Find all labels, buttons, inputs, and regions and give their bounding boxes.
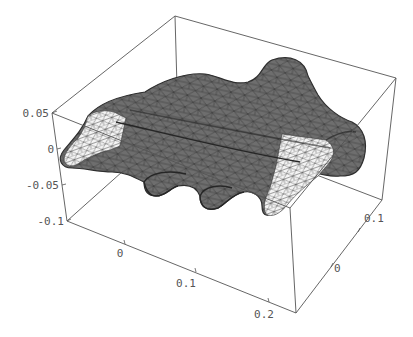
z-axis: 0.05 0 -0.05 -0.1 [23,107,72,228]
x-tick-label: 0.1 [176,277,196,290]
x-tick-label: 0 [117,247,124,260]
x-tick-label: 0.2 [254,308,274,321]
z-tick-label: -0.1 [38,215,65,228]
y-tick-label: 0.1 [364,212,384,225]
z-tick-label: 0 [47,143,54,156]
z-tick-label: 0.05 [23,107,50,120]
z-tick-label: -0.05 [26,179,59,192]
x-axis: 0 0.1 0.2 [117,240,274,321]
surface-mesh [60,58,365,216]
3d-plot: 0.05 0 -0.05 -0.1 0 0.1 0.2 0 0.1 [0,0,413,337]
y-tick-label: 0 [334,262,341,275]
y-axis: 0 0.1 [331,212,384,275]
